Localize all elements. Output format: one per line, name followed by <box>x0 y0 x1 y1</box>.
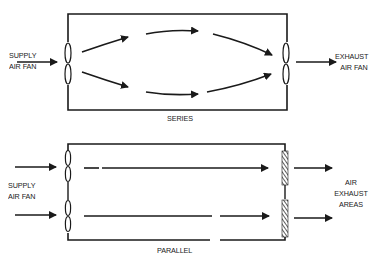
airflow-arrow-icon <box>82 37 128 52</box>
airflow-arrow-icon <box>146 92 198 95</box>
airflow-arrow-icon <box>207 74 271 92</box>
series-supply-label: SUPPLY AIR FAN <box>9 50 36 72</box>
airflow-arrow-icon <box>146 30 198 34</box>
exhaust-louver-icon <box>282 151 288 185</box>
exhaust-louver-icon <box>282 200 288 237</box>
exhaust-fan-icon <box>283 43 289 84</box>
parallel-room-outline <box>68 233 285 240</box>
parallel-exhaust-label: AIR EXHAUST AREAS <box>333 177 369 210</box>
airflow-arrow-icon <box>82 72 128 87</box>
label-line: AREAS <box>333 199 369 210</box>
series-system <box>17 14 336 110</box>
airflow-arrow-icon <box>213 34 272 55</box>
label-line: AIR FAN <box>8 191 35 202</box>
series-exhaust-label: EXHAUST AIR FAN <box>335 51 368 73</box>
label-line: EXHAUST <box>335 51 368 62</box>
label-line: AIR <box>333 177 369 188</box>
parallel-caption: PARALLEL <box>157 245 192 256</box>
label-line: AIR FAN <box>9 61 36 72</box>
label-line: SUPPLY <box>9 50 36 61</box>
label-line: SUPPLY <box>8 180 35 191</box>
supply-fan-icon <box>65 43 71 84</box>
ventilation-diagram <box>0 0 380 260</box>
supply-fan-icon <box>65 151 70 182</box>
label-line: AIR FAN <box>335 62 368 73</box>
parallel-supply-label: SUPPLY AIR FAN <box>8 180 35 202</box>
parallel-system <box>15 144 332 240</box>
supply-fan-icon <box>65 201 70 232</box>
parallel-room-outline <box>68 144 285 151</box>
series-caption: SERIES <box>167 113 193 124</box>
label-line: EXHAUST <box>333 188 369 199</box>
series-room-outline <box>68 14 287 110</box>
